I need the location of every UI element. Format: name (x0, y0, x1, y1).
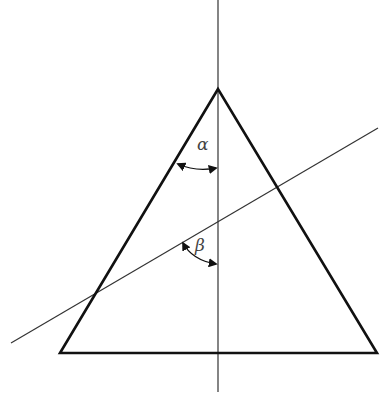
alpha-angle-arc (178, 164, 216, 169)
prism-diagram: α β (0, 0, 387, 402)
beta-label: β (194, 235, 205, 255)
alpha-label: α (197, 134, 209, 154)
